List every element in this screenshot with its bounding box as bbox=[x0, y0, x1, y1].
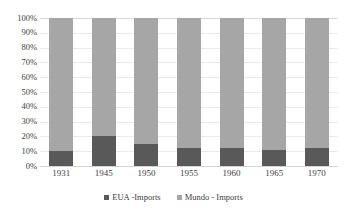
y-axis-tick-label: 100% bbox=[0, 14, 37, 23]
bar-segment[interactable] bbox=[220, 148, 244, 166]
x-axis-tick-label: 1950 bbox=[125, 168, 168, 179]
y-axis-tick-label: 0% bbox=[0, 162, 37, 171]
y-axis-tick-label: 30% bbox=[0, 117, 37, 126]
y-axis-tick-labels: 0%10%20%30%40%50%60%70%80%90%100% bbox=[0, 18, 37, 166]
bar-segment[interactable] bbox=[92, 136, 116, 166]
bar-group[interactable] bbox=[305, 18, 329, 166]
stacked-bar-chart: 0%10%20%30%40%50%60%70%80%90%100% 193119… bbox=[0, 0, 347, 213]
legend-entry[interactable]: Mundo - Imports bbox=[177, 193, 243, 202]
plot-area bbox=[40, 18, 338, 166]
bar-group[interactable] bbox=[262, 18, 286, 166]
legend-entry[interactable]: EUA -Imports bbox=[104, 193, 160, 202]
bar-segment[interactable] bbox=[134, 18, 158, 144]
bar-segment[interactable] bbox=[305, 18, 329, 148]
x-axis-tick-label: 1960 bbox=[210, 168, 253, 179]
bar-group[interactable] bbox=[92, 18, 116, 166]
bar-segment[interactable] bbox=[92, 18, 116, 136]
bar-segment[interactable] bbox=[220, 18, 244, 148]
x-axis-tick-label: 1931 bbox=[40, 168, 83, 179]
x-axis-tick-label: 1970 bbox=[295, 168, 338, 179]
bar-group[interactable] bbox=[49, 18, 73, 166]
bar-segment[interactable] bbox=[49, 18, 73, 151]
x-axis-tick-labels: 1931194519501955196019651970 bbox=[40, 168, 338, 182]
x-axis-tick-label: 1945 bbox=[83, 168, 126, 179]
bar-segment[interactable] bbox=[134, 144, 158, 166]
y-axis-tick-label: 80% bbox=[0, 43, 37, 52]
bar-segment[interactable] bbox=[177, 148, 201, 166]
legend-label: Mundo - Imports bbox=[185, 193, 243, 202]
square-marker-icon bbox=[104, 195, 109, 200]
square-marker-icon bbox=[177, 195, 182, 200]
bar-group[interactable] bbox=[134, 18, 158, 166]
y-axis-tick-label: 20% bbox=[0, 132, 37, 141]
x-axis-tick-label: 1965 bbox=[253, 168, 296, 179]
bar-segment[interactable] bbox=[262, 18, 286, 150]
bars-layer bbox=[40, 18, 338, 166]
legend-label: EUA -Imports bbox=[112, 193, 160, 202]
clipped-chart-title bbox=[0, 0, 347, 9]
y-axis-tick-label: 10% bbox=[0, 147, 37, 156]
y-axis-tick-label: 50% bbox=[0, 88, 37, 97]
bar-group[interactable] bbox=[220, 18, 244, 166]
x-axis-tick-label: 1955 bbox=[168, 168, 211, 179]
bar-segment[interactable] bbox=[305, 148, 329, 166]
bar-segment[interactable] bbox=[262, 150, 286, 166]
y-axis-tick-label: 90% bbox=[0, 28, 37, 37]
gridline bbox=[40, 166, 338, 167]
y-axis-tick-label: 60% bbox=[0, 73, 37, 82]
y-axis-tick-label: 70% bbox=[0, 58, 37, 67]
bar-group[interactable] bbox=[177, 18, 201, 166]
y-axis-tick-label: 40% bbox=[0, 102, 37, 111]
chart-legend: EUA -ImportsMundo - Imports bbox=[0, 190, 347, 204]
bar-segment[interactable] bbox=[49, 151, 73, 166]
bar-segment[interactable] bbox=[177, 18, 201, 148]
